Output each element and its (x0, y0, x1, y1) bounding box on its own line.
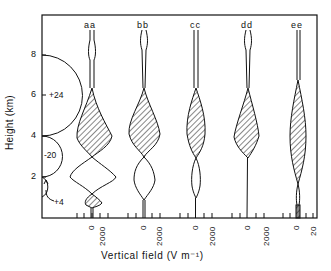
charge-label-plus-4: +4 (54, 197, 64, 207)
x-tick-cc-2000: 2000 (208, 226, 217, 246)
profile-label-aa: aa (84, 20, 96, 30)
profile-ee (290, 30, 306, 218)
y-axis-label: Height (km) (4, 95, 15, 150)
x-tick-bb-2000: 2000 (155, 226, 164, 246)
x-tick-ee-20: 20 (309, 226, 318, 236)
y-tick-2: 2 (31, 172, 36, 181)
x-axis-label: Vertical field (V m⁻¹) (101, 250, 204, 261)
profile-aa (70, 30, 116, 218)
x-tick-dd-2000: 2000 (262, 226, 271, 246)
profile-label-ee: ee (291, 20, 303, 30)
x-tick-aa-0: 0 (87, 225, 96, 230)
profile-dd (234, 30, 259, 218)
y-tick-6: 6 (31, 90, 36, 99)
x-tick-ee-0: 0 (292, 225, 301, 230)
charge-region-plus-4 (42, 177, 48, 197)
profile-label-dd: dd (241, 20, 253, 30)
charge-model (42, 55, 82, 201)
y-tick-8: 8 (31, 50, 36, 59)
charge-label-minus-20: -20 (44, 150, 56, 160)
profile-label-cc: cc (190, 20, 201, 30)
x-tick-bb-0: 0 (139, 225, 148, 230)
figure-canvas (0, 0, 331, 271)
profile-cc (187, 30, 205, 218)
profile-bb (129, 30, 160, 218)
x-tick-dd-0: 0 (243, 225, 252, 230)
y-tick-4: 4 (31, 131, 36, 140)
x-tick-left-2000: 2000 (98, 226, 107, 246)
x-tick-cc-0: 0 (191, 225, 200, 230)
profile-label-bb: bb (137, 20, 149, 30)
charge-label-plus-24: +24 (49, 90, 63, 100)
